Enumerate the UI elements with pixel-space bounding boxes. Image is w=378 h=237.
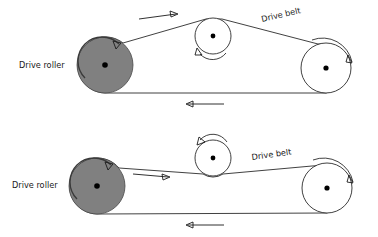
idler-pulley-hub-bottom-diagram (211, 156, 216, 161)
belt-upper-left-span-bottom-diagram (119, 168, 203, 174)
tail-pulley-hub-bottom-diagram (324, 185, 329, 190)
drive-roller-label-bottom-diagram: Drive roller (12, 180, 58, 190)
belt-upper-right-span-bottom-diagram (223, 166, 312, 174)
drive-belt-label-bottom-diagram: Drive belt (251, 146, 293, 162)
drive-roller-hub-bottom-diagram (94, 183, 100, 189)
drive-roller-label-top-diagram: Drive roller (19, 60, 65, 70)
drive-roller-hub-top-diagram (102, 62, 108, 68)
belt-drive-figure: Drive roller Drive belt (0, 0, 378, 237)
belt-lower-span-bottom-diagram (97, 213, 327, 214)
tail-pulley-hub-top-diagram (323, 65, 328, 70)
drive-belt-label-top-diagram: Drive belt (260, 5, 302, 24)
top-diagram: Drive roller Drive belt (19, 5, 352, 107)
bottom-diagram: Drive roller Drive belt (12, 134, 353, 228)
belt-upper-left-span-top-diagram (123, 19, 206, 43)
belt-upper-right-span-top-diagram (222, 19, 318, 44)
diagram-canvas: Drive roller Drive belt (0, 0, 378, 237)
idler-pulley-hub-top-diagram (211, 34, 216, 39)
